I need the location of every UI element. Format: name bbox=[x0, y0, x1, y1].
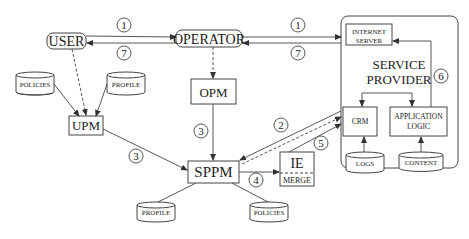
opm-label: OPM bbox=[199, 85, 228, 100]
operator-label: OPERATOR bbox=[173, 32, 246, 47]
step-7a-label: 7 bbox=[121, 47, 127, 59]
internet-server-label-2: SERVER bbox=[356, 37, 383, 45]
step-6-label: 6 bbox=[438, 70, 444, 82]
app-logic-label-2: LOGIC bbox=[407, 122, 430, 131]
content-label: CONTENT bbox=[405, 159, 438, 167]
step-5-label: 5 bbox=[318, 137, 324, 149]
service-provider-label-1: SERVICE bbox=[372, 57, 425, 72]
upm-label: UPM bbox=[72, 118, 101, 133]
service-provider-label-2: PROVIDER bbox=[366, 72, 431, 87]
step-3b-label: 3 bbox=[133, 150, 139, 162]
step-7b-label: 7 bbox=[295, 47, 301, 59]
sppm-profile-label: PROFILE bbox=[142, 209, 170, 217]
architecture-diagram: 1 7 1 7 3 3 2 5 4 6 USER OPERATOR OPM UP… bbox=[0, 0, 469, 239]
upm-policies-label: POLICIES bbox=[20, 81, 51, 89]
step-4-label: 4 bbox=[253, 174, 259, 186]
merge-label: MERGE bbox=[283, 176, 311, 185]
step-3a-label: 3 bbox=[198, 125, 204, 137]
app-logic-label-1: APPLICATION bbox=[394, 112, 443, 121]
crm-label: CRM bbox=[352, 117, 369, 126]
sppm-policies-label: POLICIES bbox=[254, 209, 285, 217]
step-2-label: 2 bbox=[278, 119, 284, 131]
ie-label: IE bbox=[290, 156, 303, 171]
internet-server-label-1: INTERNET bbox=[352, 28, 387, 36]
step-1b-label: 1 bbox=[295, 19, 301, 31]
logs-label: LOGS bbox=[356, 160, 374, 168]
sppm-label: SPPM bbox=[194, 164, 232, 180]
user-label: USER bbox=[49, 34, 85, 49]
upm-profile-label: PROFILE bbox=[112, 81, 140, 89]
step-1a-label: 1 bbox=[121, 19, 127, 31]
